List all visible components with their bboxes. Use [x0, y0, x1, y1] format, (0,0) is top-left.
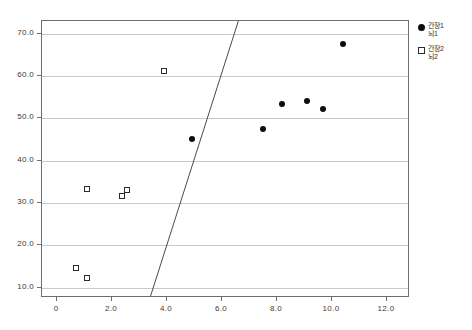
grid-line: [42, 203, 408, 204]
grid-line: [42, 118, 408, 119]
x-tick-label: 4.0: [160, 304, 172, 313]
x-tick-label: 6.0: [215, 304, 227, 313]
legend-label-line1: 간장1: [428, 22, 444, 30]
y-tick-mark: [37, 117, 41, 118]
data-point-group-2: [161, 68, 167, 74]
x-tick-label: 10.0: [323, 304, 340, 313]
y-tick-label: 50.0: [17, 112, 34, 121]
data-point-group-1: [320, 106, 326, 112]
data-point-group-2: [84, 275, 90, 281]
y-tick-label: 60.0: [17, 70, 34, 79]
x-tick-label: 2.0: [105, 304, 117, 313]
y-tick-label: 30.0: [17, 197, 34, 206]
x-tick-label: 0: [54, 304, 59, 313]
grid-line: [42, 161, 408, 162]
discriminant-line: [42, 21, 410, 298]
data-point-group-2: [84, 186, 90, 192]
y-tick-mark: [37, 287, 41, 288]
y-tick-mark: [37, 75, 41, 76]
x-tick-mark: [111, 297, 112, 301]
data-point-group-2: [73, 265, 79, 271]
open-square-icon: [418, 47, 425, 54]
x-tick-mark: [276, 297, 277, 301]
grid-line: [42, 76, 408, 77]
x-tick-mark: [386, 297, 387, 301]
legend-label-line1: 간장2: [428, 45, 444, 53]
y-tick-mark: [37, 33, 41, 34]
y-tick-mark: [37, 160, 41, 161]
y-tick-mark: [37, 202, 41, 203]
y-tick-label: 40.0: [17, 155, 34, 164]
grid-line: [42, 34, 408, 35]
scatter-chart: 10.020.030.040.050.060.070.0 02.04.06.08…: [0, 0, 472, 330]
x-tick-mark: [221, 297, 222, 301]
x-tick-label: 12.0: [378, 304, 395, 313]
legend-item-group-1: 간장1 뇌1: [418, 22, 472, 38]
legend-item-group-2: 간장2 뇌2: [418, 45, 472, 61]
legend-item-group-1-label: 간장1 뇌1: [428, 22, 444, 38]
y-tick-mark: [37, 244, 41, 245]
data-point-group-1: [340, 41, 346, 47]
plot-area: [41, 20, 409, 297]
filled-circle-icon: [418, 24, 425, 31]
x-tick-mark: [56, 297, 57, 301]
grid-line: [42, 288, 408, 289]
data-point-group-1: [260, 126, 266, 132]
y-tick-label: 70.0: [17, 28, 34, 37]
data-point-group-1: [304, 98, 310, 104]
legend-item-group-2-label: 간장2 뇌2: [428, 45, 444, 61]
legend-label-line2: 뇌1: [428, 30, 444, 38]
data-point-group-2: [124, 187, 130, 193]
data-point-group-1: [279, 101, 285, 107]
data-point-group-2: [119, 193, 125, 199]
discriminant-line: [150, 21, 238, 296]
legend: 간장1 뇌1 간장2 뇌2: [418, 22, 472, 68]
data-point-group-1: [189, 136, 195, 142]
x-tick-mark: [331, 297, 332, 301]
grid-line: [42, 245, 408, 246]
legend-label-line2: 뇌2: [428, 53, 444, 61]
y-tick-label: 20.0: [17, 239, 34, 248]
y-tick-label: 10.0: [17, 282, 34, 291]
x-tick-mark: [166, 297, 167, 301]
x-tick-label: 8.0: [270, 304, 282, 313]
